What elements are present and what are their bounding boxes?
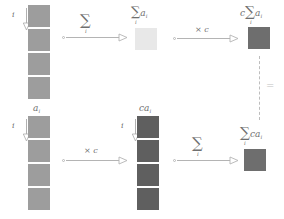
- sum-arrow-top-index: i: [85, 29, 87, 35]
- sigma-icon: ∑: [245, 3, 255, 19]
- term-subscript: i: [149, 108, 151, 114]
- sum-arrow-bottom-label: ∑: [192, 136, 203, 151]
- term-a: a: [140, 8, 145, 18]
- sum-of-scaled-result-cell: [244, 149, 266, 171]
- array-cell: [28, 188, 50, 210]
- scaled-array-label: cai: [139, 104, 151, 113]
- term-subscript: i: [38, 108, 40, 114]
- array-cell: [137, 188, 159, 210]
- array-cell: [28, 77, 50, 99]
- array-cell: [137, 164, 159, 186]
- arrow-head-icon: [118, 33, 128, 42]
- sigma-icon: ∑: [131, 4, 140, 19]
- array-cell: [137, 140, 159, 162]
- array-cell: [28, 53, 50, 75]
- index-label-bottom-left: i: [12, 122, 15, 130]
- term-subscript: i: [260, 13, 262, 19]
- sigma-icon: ∑: [240, 124, 250, 140]
- times-icon: ×: [84, 146, 91, 155]
- scale-arrow-top-line: [177, 38, 230, 39]
- commutative-diagram: i ∑ i ∑ai i × c c∑ai i =: [0, 0, 284, 219]
- coefficient-c: c: [204, 25, 208, 34]
- coefficient-c: c: [93, 146, 97, 155]
- arrow-tail-dot: [62, 36, 65, 39]
- sigma-icon: ∑: [192, 134, 203, 152]
- array-cell: [28, 29, 50, 51]
- equals-sign: =: [266, 81, 274, 91]
- arrow-tail-dot: [173, 159, 176, 162]
- sum-of-scaled-result-label: ∑cai: [240, 125, 262, 139]
- scale-arrow-top-label: × c: [195, 26, 209, 34]
- index-label-bottom-middle: i: [121, 122, 124, 130]
- sum-result-label: ∑ai: [131, 5, 147, 18]
- scaled-sum-result-label: c∑ai: [240, 4, 262, 18]
- sum-arrow-top-label: ∑: [80, 13, 91, 28]
- scale-arrow-bottom-label: × c: [84, 147, 98, 155]
- sum-result-index: i: [135, 20, 137, 26]
- array-cell: [137, 116, 159, 138]
- array-cell: [28, 116, 50, 138]
- sum-arrow-bottom-line: [177, 160, 230, 161]
- arrow-tail-dot: [62, 159, 65, 162]
- times-icon: ×: [195, 25, 202, 34]
- arrow-head-icon: [229, 34, 239, 43]
- scaled-sum-result-cell: [248, 27, 270, 49]
- term-subscript: i: [260, 134, 262, 140]
- sum-arrow-top-line: [66, 37, 119, 38]
- arrow-head-icon: [229, 156, 239, 165]
- scaled-sum-result-index: i: [250, 20, 252, 26]
- sum-of-scaled-result-index: i: [244, 141, 246, 147]
- array-cell: [28, 140, 50, 162]
- equality-dashed-line: [259, 56, 260, 120]
- sum-arrow-bottom-index: i: [197, 152, 199, 158]
- scale-arrow-bottom-line: [66, 160, 119, 161]
- arrow-tail-dot: [173, 37, 176, 40]
- sigma-icon: ∑: [80, 11, 91, 29]
- arrow-head-icon: [118, 156, 128, 165]
- input-array-bottom-label: ai: [33, 104, 40, 113]
- sum-result-cell: [135, 28, 157, 50]
- array-cell: [28, 5, 50, 27]
- array-cell: [28, 164, 50, 186]
- term-subscript: i: [146, 13, 148, 19]
- index-label-top-left: i: [12, 11, 15, 19]
